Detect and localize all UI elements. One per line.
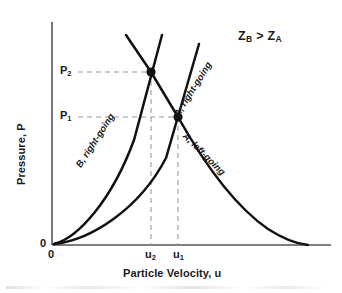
u2-base: u	[145, 248, 152, 260]
impedance-z-b-base: Z	[238, 29, 246, 43]
intersection-point-p2	[146, 67, 155, 76]
u1-base: u	[173, 248, 180, 260]
curve-a-right-going	[54, 44, 199, 244]
y-tick-label-p1: P1	[60, 110, 72, 122]
u2-subscript: 2	[152, 253, 156, 262]
impedance-operator: >	[252, 29, 267, 43]
p1-subscript: 1	[67, 114, 71, 123]
u1-subscript: 1	[180, 253, 184, 262]
y-tick-label-p2: P2	[60, 65, 72, 77]
x-tick-label-u2: u2	[145, 249, 156, 261]
p2-subscript: 2	[67, 69, 71, 78]
pressure-particle-velocity-diagram: Pressure, P Particle Velocity, u P2 P1 u…	[0, 0, 342, 293]
y-axis-title: Pressure, P	[16, 123, 27, 185]
origin-label-x: 0	[48, 249, 54, 260]
impedance-z-a-subscript: A	[275, 34, 281, 44]
origin-label-y: 0	[40, 238, 46, 249]
scan-artifact	[6, 286, 326, 289]
x-axis-title: Particle Velocity, u	[123, 268, 221, 279]
impedance-annotation: ZB > ZA	[238, 30, 282, 43]
x-tick-label-u1: u1	[173, 249, 184, 261]
